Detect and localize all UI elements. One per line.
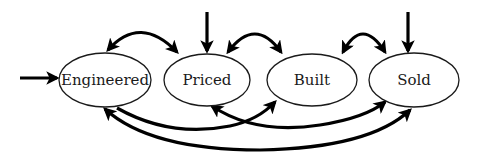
node-built: Built — [267, 54, 357, 106]
edge-priced-built — [228, 34, 281, 52]
node-label-priced: Priced — [183, 71, 232, 89]
node-sold: Sold — [369, 53, 459, 107]
edge-engineered-priced — [108, 32, 177, 52]
node-label-engineered: Engineered — [61, 71, 149, 89]
node-engineered: Engineered — [59, 53, 151, 107]
state-diagram: Engineered Priced Built Sold — [0, 0, 478, 160]
edge-built-sold — [343, 34, 385, 52]
node-label-built: Built — [294, 71, 330, 89]
node-priced: Priced — [164, 54, 250, 106]
node-label-sold: Sold — [397, 71, 431, 89]
edge-engineered-built — [117, 102, 275, 129]
